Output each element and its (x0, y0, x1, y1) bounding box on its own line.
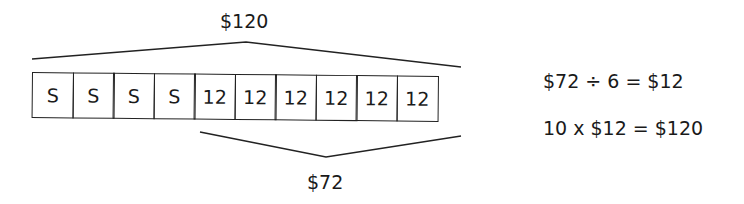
tape-cell: 12 (315, 75, 357, 121)
tape-cell: 12 (396, 75, 438, 121)
tape-cell: S (153, 73, 195, 119)
equation-division: $72 ÷ 6 = $12 (543, 70, 684, 92)
tape-cell: S (32, 72, 74, 118)
tape-cell: 12 (275, 74, 317, 120)
tape-cell: 12 (234, 74, 276, 120)
tape-cell: S (72, 72, 114, 118)
partial-label: $72 (307, 171, 343, 193)
total-label: $120 (220, 10, 268, 32)
tape-cell: 12 (194, 74, 236, 120)
equation-multiplication: 10 x $12 = $120 (543, 117, 703, 139)
tape-cell: 12 (356, 75, 398, 121)
tape-diagram: SSSS121212121212 (32, 72, 439, 122)
tape-cell: S (113, 73, 155, 119)
